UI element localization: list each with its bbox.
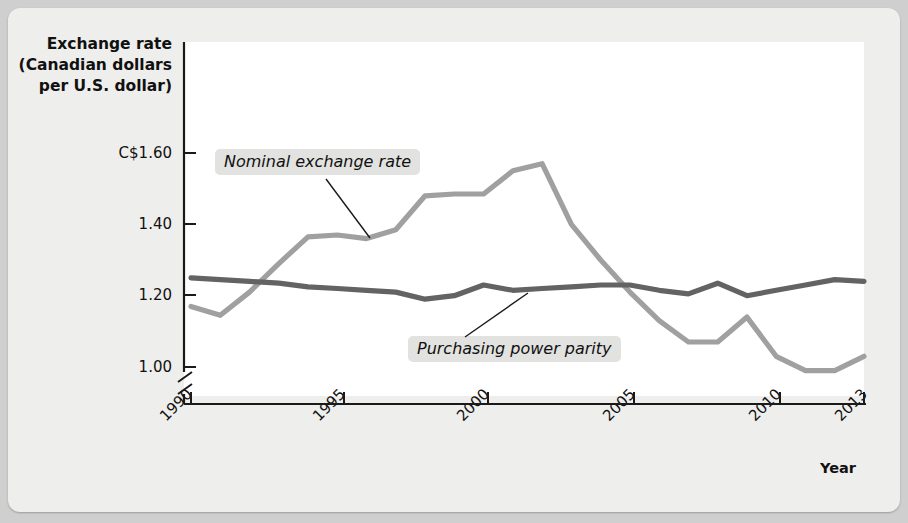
leader-line-ppp [465, 293, 528, 337]
x-tick-marks [191, 392, 864, 404]
y-axis-break-marker [178, 372, 192, 394]
chart-svg [8, 8, 900, 512]
figure-card: Exchange rate (Canadian dollars per U.S.… [8, 8, 900, 512]
series-line-purchasing-power-parity [191, 278, 864, 299]
leader-line-nominal [326, 179, 370, 238]
y-tick-marks [184, 153, 196, 367]
series-line-nominal-exchange-rate [191, 164, 864, 371]
